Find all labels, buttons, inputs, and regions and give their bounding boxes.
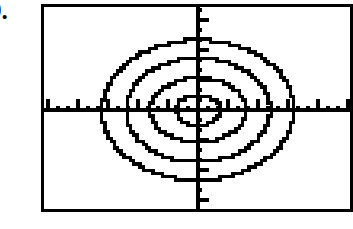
graph-plot-area [44,7,350,209]
graph-svg [44,7,350,209]
calculator-screen-frame [41,4,353,212]
problem-number-label: 9. [0,0,29,27]
